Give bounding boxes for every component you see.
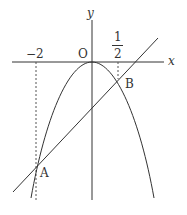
graph-canvas (0, 0, 187, 215)
y-axis-label: y (87, 7, 94, 19)
x-axis-label: x (168, 55, 175, 67)
straight-line (13, 38, 158, 192)
graph-figure: y x O −2 1 2 B A (0, 0, 187, 215)
tick-half-denominator: 2 (114, 48, 122, 60)
fraction-bar (112, 45, 123, 46)
tick-label-minus-2: −2 (26, 48, 44, 60)
point-label-a: A (40, 167, 49, 179)
origin-label: O (78, 48, 88, 60)
point-label-b: B (125, 78, 134, 90)
tick-half-numerator: 1 (114, 31, 122, 43)
